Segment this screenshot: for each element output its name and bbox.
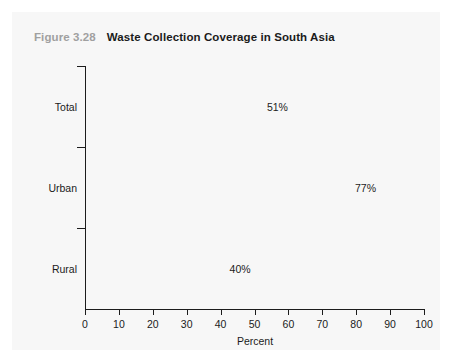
- y-axis-category-label: Urban: [0, 182, 86, 194]
- x-axis-tick: [187, 310, 188, 315]
- x-axis-title: Percent: [85, 335, 425, 347]
- x-axis-tick: [153, 310, 154, 315]
- y-axis-tick: [77, 228, 85, 229]
- figure-number: Figure 3.28: [34, 31, 96, 43]
- x-axis-tick-label: 10: [113, 318, 125, 330]
- x-axis-tick: [288, 310, 289, 315]
- y-axis-category-label: Rural: [0, 263, 86, 275]
- bar-row: Total51%: [86, 94, 259, 120]
- bar-value-label: 51%: [267, 101, 288, 113]
- figure-caption: Figure 3.28Waste Collection Coverage in …: [34, 31, 335, 43]
- x-axis-tick-label: 30: [181, 318, 193, 330]
- x-axis-tick-label: 40: [215, 318, 227, 330]
- x-axis-tick-label: 0: [82, 318, 88, 330]
- figure-title: Waste Collection Coverage in South Asia: [107, 31, 335, 43]
- x-axis-tick: [424, 310, 425, 315]
- x-axis-tick: [390, 310, 391, 315]
- y-axis-tick: [77, 66, 85, 67]
- bar-row: Urban77%: [86, 175, 347, 201]
- x-axis-tick-label: 90: [384, 318, 396, 330]
- x-axis-tick: [322, 310, 323, 315]
- x-axis-tick-label: 100: [415, 318, 433, 330]
- bar-chart-plot-area: 0102030405060708090100 Total51%Urban77%R…: [24, 60, 440, 350]
- x-axis-tick: [119, 310, 120, 315]
- x-axis-tick-label: 50: [249, 318, 261, 330]
- y-axis-category-label: Total: [0, 101, 86, 113]
- figure-panel: Figure 3.28Waste Collection Coverage in …: [12, 12, 440, 350]
- x-axis-tick: [221, 310, 222, 315]
- bar-value-label: 40%: [230, 263, 251, 275]
- x-axis-tick: [356, 310, 357, 315]
- x-axis-tick-label: 70: [316, 318, 328, 330]
- x-axis-tick: [255, 310, 256, 315]
- y-axis-tick: [77, 147, 85, 148]
- bar-value-label: 77%: [355, 182, 376, 194]
- x-axis-tick-label: 60: [283, 318, 295, 330]
- x-axis-tick-label: 80: [350, 318, 362, 330]
- x-axis-tick: [85, 310, 86, 315]
- bar-row: Rural40%: [86, 256, 222, 282]
- x-axis-tick-label: 20: [147, 318, 159, 330]
